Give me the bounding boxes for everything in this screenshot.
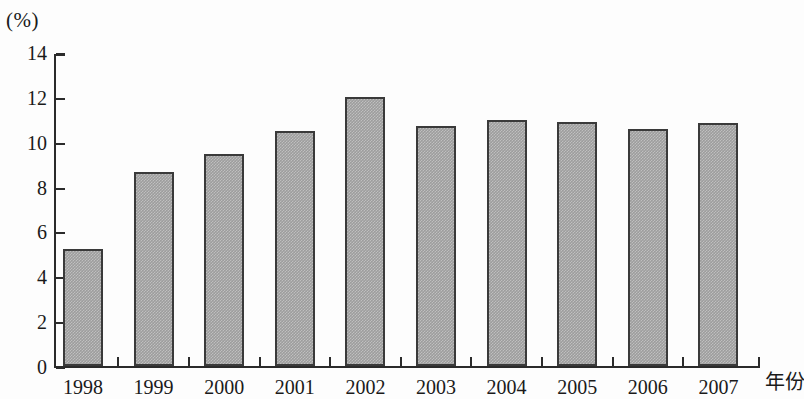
y-axis-tick-label: 10 xyxy=(27,132,47,152)
x-axis-tick-label: 2006 xyxy=(628,377,668,397)
x-axis-line xyxy=(54,366,760,368)
x-axis-title: 年份 xyxy=(765,372,804,392)
x-axis-tick-label: 2001 xyxy=(275,377,315,397)
x-axis-tick xyxy=(259,357,261,366)
bar xyxy=(698,123,738,366)
y-axis-tick-label: 8 xyxy=(37,177,47,197)
plot-area: 02468101214 1998199920002001200220032004… xyxy=(54,54,760,368)
x-axis-tick-label: 2003 xyxy=(416,377,456,397)
chart-figure: (%) 02468101214 199819992000200120022003… xyxy=(0,0,804,399)
bar xyxy=(345,97,385,366)
y-axis-tick-label: 6 xyxy=(37,222,47,242)
x-axis-tick xyxy=(541,357,543,366)
y-axis-tick-label: 4 xyxy=(37,267,47,287)
y-axis-tick: 0 xyxy=(56,367,65,369)
y-axis-tick: 12 xyxy=(56,98,65,100)
y-axis-tick: 8 xyxy=(56,188,65,190)
x-axis-tick-label: 1998 xyxy=(63,377,103,397)
x-axis-tick-label: 2002 xyxy=(345,377,385,397)
x-axis-tick-label: 2004 xyxy=(487,377,527,397)
x-axis-tick-label: 2005 xyxy=(557,377,597,397)
bar xyxy=(628,129,668,366)
x-axis-tick xyxy=(117,357,119,366)
x-axis-tick xyxy=(682,357,684,366)
x-axis-tick xyxy=(400,357,402,366)
y-axis-tick: 14 xyxy=(56,53,65,55)
y-axis-unit-label: (%) xyxy=(6,8,39,33)
bar xyxy=(416,126,456,366)
x-axis-tick xyxy=(612,357,614,366)
bar xyxy=(557,122,597,366)
y-axis-tick-label: 2 xyxy=(37,312,47,332)
x-axis-tick-label: 1999 xyxy=(134,377,174,397)
x-axis-tick xyxy=(470,357,472,366)
bar xyxy=(204,154,244,366)
x-axis-tick-label: 2000 xyxy=(204,377,244,397)
x-axis-tick-label: 2007 xyxy=(698,377,738,397)
bar xyxy=(134,172,174,366)
y-axis-line xyxy=(54,54,56,368)
x-axis-tick xyxy=(329,357,331,366)
y-axis-tick-label: 14 xyxy=(27,43,47,63)
x-axis-tick xyxy=(188,357,190,366)
y-axis-tick: 10 xyxy=(56,143,65,145)
bar xyxy=(487,120,527,366)
x-axis-right-cap xyxy=(758,357,760,368)
bar xyxy=(275,131,315,367)
bar xyxy=(63,249,103,366)
y-axis-tick-label: 0 xyxy=(37,357,47,377)
y-axis-tick: 6 xyxy=(56,232,65,234)
y-axis-tick-label: 12 xyxy=(27,87,47,107)
